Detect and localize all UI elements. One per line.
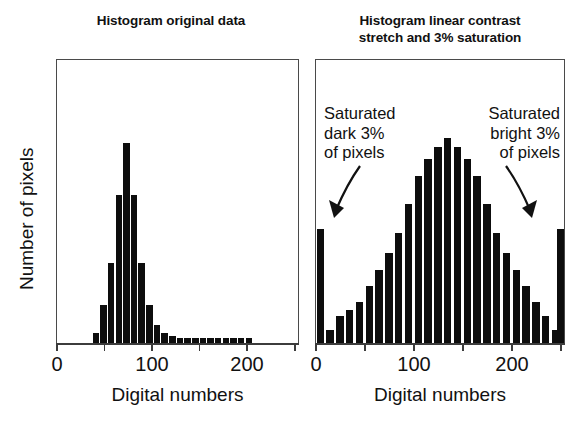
x-tick <box>246 343 248 351</box>
bar <box>444 138 452 343</box>
x-axis-label-original: Digital numbers <box>56 384 299 406</box>
bar <box>434 147 442 343</box>
x-tick-label: 200 <box>230 353 263 375</box>
bar <box>116 195 123 343</box>
x-tick <box>364 343 366 351</box>
x-tick <box>315 343 317 351</box>
bar <box>146 305 153 343</box>
bar <box>464 159 472 343</box>
annotation-saturated-bright: Saturated bright 3% of pixels <box>450 104 560 163</box>
x-tick <box>151 343 153 351</box>
x-tick <box>199 343 201 351</box>
x-axis-label-stretched: Digital numbers <box>315 384 565 406</box>
bar <box>375 270 383 343</box>
bar <box>385 253 393 343</box>
bar <box>154 325 161 343</box>
bar <box>473 176 481 343</box>
x-tick <box>413 343 415 351</box>
bar <box>503 253 511 343</box>
x-tick-label: 200 <box>495 353 528 375</box>
x-tick <box>511 343 513 351</box>
bar <box>454 147 462 343</box>
bar <box>326 330 334 343</box>
x-tick-label: 0 <box>51 353 62 375</box>
panel-histogram-stretched: Histogram linear contrast stretch and 3%… <box>300 0 587 432</box>
x-axis-line-original <box>56 343 299 345</box>
panel-title-original: Histogram original data <box>46 12 296 29</box>
bar <box>131 195 138 343</box>
x-tick <box>462 343 464 351</box>
bar <box>100 305 107 343</box>
bar <box>405 204 413 343</box>
bar <box>138 263 145 343</box>
bar <box>542 316 550 343</box>
figure-root: Number of pixels Histogram original data <box>0 0 587 432</box>
bar <box>336 316 344 343</box>
bar-saturated-bright <box>557 229 565 343</box>
bar <box>522 286 530 343</box>
panel-histogram-original: Histogram original data <box>0 0 300 432</box>
bar <box>93 333 100 343</box>
bars-stretched <box>315 59 565 343</box>
bar <box>493 233 501 343</box>
bar <box>424 159 432 343</box>
bar <box>108 263 115 343</box>
x-tick-label: 0 <box>310 353 321 375</box>
bar <box>366 286 374 343</box>
bars-original <box>56 59 299 343</box>
x-axis-line-stretched <box>315 343 565 345</box>
bar <box>513 270 521 343</box>
x-tick-label: 100 <box>397 353 430 375</box>
x-tick <box>560 343 562 351</box>
bar-saturated-dark <box>317 229 325 343</box>
bar <box>356 302 364 343</box>
bar <box>346 310 354 343</box>
x-tick <box>294 343 296 351</box>
bar <box>532 302 540 343</box>
x-tick <box>104 343 106 351</box>
bar <box>169 336 176 343</box>
bar <box>415 176 423 343</box>
bar <box>161 333 168 343</box>
x-tick <box>56 343 58 351</box>
bar <box>123 143 130 343</box>
annotation-saturated-dark: Saturated dark 3% of pixels <box>324 104 428 163</box>
bar <box>483 204 491 343</box>
panel-title-stretched: Histogram linear contrast stretch and 3%… <box>302 12 578 46</box>
bar <box>395 233 403 343</box>
x-tick-label: 100 <box>135 353 168 375</box>
